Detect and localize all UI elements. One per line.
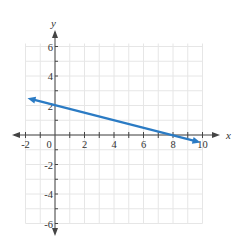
x-tick-label: 8: [170, 139, 175, 150]
y-tick-label: -4: [44, 189, 53, 200]
x-axis-left-arrow-icon: [12, 132, 20, 138]
x-tick-label: 10: [197, 139, 208, 150]
x-tick-label: -2: [21, 139, 30, 150]
x-axis-label: x: [225, 129, 231, 141]
y-tick-label: 6: [48, 42, 53, 53]
y-tick-label: -6: [44, 219, 53, 230]
y-axis-label: y: [50, 17, 56, 29]
coordinate-plane: -20246810-6-4-2246 x y: [0, 0, 236, 243]
x-tick-label: 6: [141, 139, 146, 150]
x-axis-right-arrow-icon: [212, 132, 220, 138]
x-tick-label: 4: [111, 139, 117, 150]
y-tick-label: -2: [44, 160, 53, 171]
y-tick-label: 2: [48, 101, 53, 112]
y-axis-up-arrow-icon: [52, 30, 58, 38]
y-tick-label: 4: [48, 71, 54, 82]
x-tick-label: 0: [46, 139, 51, 150]
x-tick-label: 2: [82, 139, 87, 150]
line-left-arrow-icon: [28, 97, 37, 104]
